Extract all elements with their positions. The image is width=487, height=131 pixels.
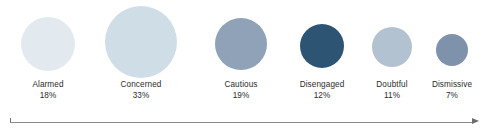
bubble-area — [8, 0, 88, 78]
bubble-chart: Alarmed 18% Concerned 33% Cautious 19% D… — [0, 0, 487, 131]
bubble-area — [281, 0, 363, 78]
bubble-circle-cautious[interactable] — [215, 18, 267, 70]
bubble-group-dismissive: Dismissive 7% — [416, 0, 487, 113]
bubble-value-alarmed: 18% — [8, 91, 88, 102]
bubble-label-disengaged: Disengaged — [281, 80, 363, 91]
bubble-value-cautious: 19% — [203, 91, 279, 102]
bubble-label-concerned: Concerned — [96, 80, 186, 91]
bubble-value-dismissive: 7% — [416, 91, 487, 102]
axis-arrow-icon — [472, 118, 479, 124]
bubble-label-alarmed: Alarmed — [8, 80, 88, 91]
bubble-circle-disengaged[interactable] — [300, 24, 344, 68]
bubble-group-disengaged: Disengaged 12% — [281, 0, 363, 113]
bubble-area — [416, 0, 487, 78]
bubble-circle-concerned[interactable] — [105, 6, 177, 78]
bubble-group-cautious: Cautious 19% — [203, 0, 279, 113]
bubble-circle-doubtful[interactable] — [372, 27, 412, 67]
bubble-area — [203, 0, 279, 78]
bubble-circle-alarmed[interactable] — [21, 17, 75, 71]
bubble-value-disengaged: 12% — [281, 91, 363, 102]
axis-line — [10, 122, 474, 123]
bubble-circle-dismissive[interactable] — [436, 34, 468, 66]
bubble-group-concerned: Concerned 33% — [96, 0, 186, 113]
bubble-value-concerned: 33% — [96, 91, 186, 102]
bubble-area — [96, 0, 186, 78]
bubble-row: Alarmed 18% Concerned 33% Cautious 19% D… — [0, 0, 487, 113]
bubble-label-cautious: Cautious — [203, 80, 279, 91]
bubble-label-dismissive: Dismissive — [416, 80, 487, 91]
bubble-group-alarmed: Alarmed 18% — [8, 0, 88, 113]
